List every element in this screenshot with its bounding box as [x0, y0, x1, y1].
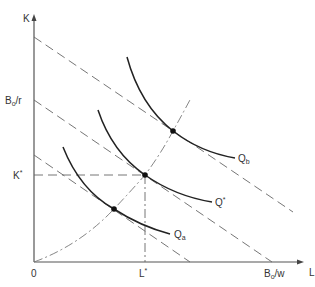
l-axis-arrow-icon: [297, 260, 304, 265]
l-axis-label: L: [309, 267, 315, 278]
k-axis-arrow-icon: [32, 14, 37, 21]
tangency-point-qstar: [142, 172, 148, 178]
budget-over-w-label: Bo/w: [264, 268, 285, 280]
isoquant-qa: [63, 147, 170, 234]
l-star-label: L*: [139, 267, 148, 279]
isoquant-qstar: [98, 110, 212, 202]
tangency-point-qb: [170, 128, 176, 134]
isocost-isoquant-diagram: K L 0 Bo/r K* L* Bo/w Qb Q* Qa: [0, 0, 315, 287]
tangency-point-qa: [111, 206, 117, 212]
origin-label: 0: [31, 268, 37, 279]
isoquant-qa-label: Qa: [174, 229, 186, 241]
k-axis-label: K: [23, 13, 30, 24]
isoquant-qb-label: Qb: [238, 153, 250, 165]
isoquant-qb: [127, 57, 235, 158]
expansion-path: [34, 98, 191, 262]
k-star-label: K*: [13, 169, 23, 181]
isoquant-qstar-label: Q*: [215, 196, 226, 208]
budget-over-r-label: Bo/r: [5, 95, 22, 107]
